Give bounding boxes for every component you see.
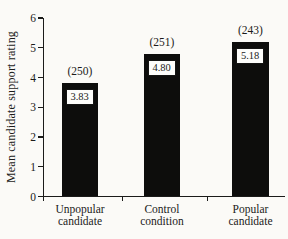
x-tick: [122, 197, 123, 201]
sample-size-label: (251): [132, 35, 192, 49]
y-tick-label: 5: [22, 42, 36, 54]
category-label-line: Control: [120, 203, 204, 215]
category-label: Controlcondition: [120, 203, 204, 227]
y-tick-label: 6: [22, 12, 36, 24]
y-tick-label: 3: [22, 101, 36, 113]
y-tick-label: 2: [22, 131, 36, 143]
category-label-line: condition: [120, 215, 204, 227]
x-tick: [207, 197, 208, 201]
y-tick-label: 4: [22, 72, 36, 84]
y-axis-title: Mean candidate support rating: [4, 17, 18, 197]
category-label-line: Popular: [209, 203, 288, 215]
y-tick-label: 0: [22, 191, 36, 203]
category-label-line: Unpopular: [38, 203, 122, 215]
sample-size-label: (243): [221, 23, 281, 37]
category-label-line: candidate: [38, 215, 122, 227]
y-tick: [38, 107, 43, 108]
y-tick: [38, 17, 43, 18]
y-tick: [38, 47, 43, 48]
bar-value-label: 5.18: [236, 48, 264, 64]
bar-value-label: 4.80: [148, 60, 176, 76]
y-tick: [38, 136, 43, 137]
bar-value-label: 3.83: [66, 89, 94, 105]
sample-size-label: (250): [50, 64, 110, 78]
y-tick: [38, 77, 43, 78]
category-label: Unpopularcandidate: [38, 203, 122, 227]
category-label: Popularcandidate: [209, 203, 288, 227]
x-tick: [43, 197, 44, 201]
bar-3: [232, 42, 269, 196]
y-axis-line: [43, 18, 45, 198]
bar-chart-figure: Mean candidate support rating 0123456 (2…: [0, 0, 287, 239]
y-tick-label: 1: [22, 161, 36, 173]
category-label-line: candidate: [209, 215, 288, 227]
y-tick: [38, 166, 43, 167]
